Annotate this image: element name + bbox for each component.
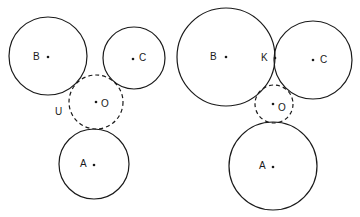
left-center-point-a [93,164,96,167]
right-figure: BCOAK [177,8,352,210]
right-center-point-c [312,59,315,62]
left-center-point-c [132,58,135,61]
left-label-u: U [55,106,62,117]
right-center-point-b [225,56,228,59]
right-tangent-point-k [274,57,277,60]
left-label-c: C [139,52,146,63]
left-label-b: B [33,51,40,62]
right-label-o: O [278,102,286,113]
left-center-point-o [95,101,98,104]
left-circle-c [103,27,165,89]
circles-diagram: BCOAU BCOAK [0,0,360,217]
left-label-o: O [101,98,109,109]
right-center-point-o [272,103,275,106]
right-label-k: K [261,52,268,63]
left-center-point-b [47,56,50,59]
right-center-point-a [272,166,275,169]
left-figure: BCOAU [9,17,165,199]
left-label-a: A [80,158,87,169]
right-label-b: B [210,51,217,62]
right-label-c: C [320,54,327,65]
right-label-a: A [259,160,266,171]
